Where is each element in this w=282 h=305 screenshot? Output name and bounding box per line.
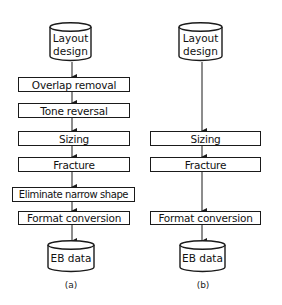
flow-a-step-format-conversion: Format conversion [18, 211, 130, 225]
flow-a-end-cylinder: EB data [47, 240, 95, 273]
flow-a-step-tone-reversal: Tone reversal [18, 103, 130, 118]
flowchart-diagram: Layout design Overlap removal Tone rever… [0, 0, 282, 305]
flow-b-end-label: EB data [179, 252, 226, 264]
flow-a-start-label-line1: Layout [49, 32, 92, 44]
flow-b-start-label-line2: design [178, 45, 223, 57]
flow-a-start-label-line2: design [49, 45, 92, 57]
flow-a-start-cylinder: Layout design [49, 22, 92, 62]
flow-b-step-sizing: Sizing [150, 131, 261, 146]
flow-b-caption: (b) [197, 280, 210, 290]
flow-a-step-eliminate-narrow-shape: Eliminate narrow shape [12, 187, 135, 202]
flow-b-end-cylinder: EB data [179, 240, 226, 273]
flow-a-step-fracture: Fracture [18, 157, 130, 172]
flow-a-step-sizing: Sizing [18, 131, 130, 146]
connector-arrows [0, 0, 282, 305]
flow-a-end-label: EB data [47, 252, 95, 264]
flow-b-step-format-conversion: Format conversion [150, 211, 261, 225]
flow-b-start-cylinder: Layout design [178, 22, 223, 62]
flow-b-step-fracture: Fracture [150, 157, 261, 172]
flow-b-start-label-line1: Layout [178, 32, 223, 44]
flow-a-step-overlap-removal: Overlap removal [18, 77, 130, 92]
flow-a-caption: (a) [65, 280, 78, 290]
